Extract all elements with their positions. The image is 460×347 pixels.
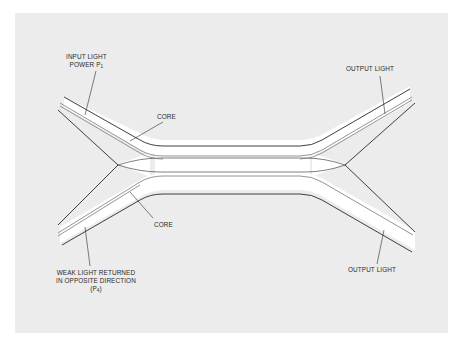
output-light-label-bottom: OUTPUT LIGHT — [348, 266, 396, 274]
core-label-bottom: CORE — [154, 221, 173, 229]
input-power-line: POWER P1 — [66, 61, 107, 71]
lower-fiber — [60, 173, 415, 250]
weak-power-line: (P4) — [56, 285, 136, 295]
weak-light-label: WEAK LIGHT RETURNED IN OPPOSITE DIRECTIO… — [56, 269, 136, 295]
upper-fiber — [64, 86, 410, 156]
input-light-label: INPUT LIGHT POWER P1 — [66, 53, 107, 71]
coupling-region — [155, 150, 310, 180]
output-light-label-top: OUTPUT LIGHT — [346, 65, 394, 73]
core-label-top: CORE — [157, 113, 176, 121]
